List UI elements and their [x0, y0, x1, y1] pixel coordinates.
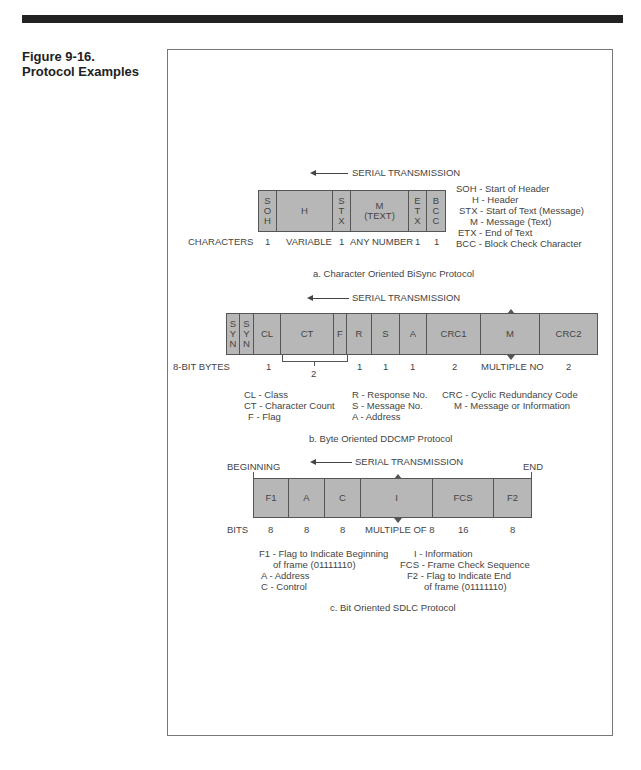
legend-cl: CL - Class [244, 389, 335, 400]
sdlc-legend-col1: F1 - Flag to Indicate Beginning of frame… [259, 548, 388, 592]
figure-number: Figure 9-16. [22, 49, 139, 64]
bisync-frame: SOH H STX M(TEXT) ETX BCC [258, 190, 446, 232]
legend-m: M - Message or Information [442, 400, 578, 411]
header-rule [22, 15, 623, 23]
field-f2: F2 [494, 478, 532, 518]
field-etx: ETX [409, 190, 427, 232]
size-f2: 8 [510, 524, 515, 535]
legend-f: F - Flag [244, 411, 335, 422]
caption-a: a. Character Oriented BiSync Protocol [313, 268, 474, 279]
field-i: I [361, 478, 433, 518]
field-syn-2: SYN [240, 313, 254, 355]
field-s: S [372, 313, 400, 355]
size-a: 8 [304, 524, 309, 535]
size-s: 1 [383, 361, 388, 372]
size-soh: 1 [265, 236, 270, 247]
field-fcs: FCS [433, 478, 494, 518]
size-c: 8 [340, 524, 345, 535]
end-label: END [523, 461, 543, 472]
ct-f-bracket [282, 355, 348, 362]
legend-r: R - Response No. [352, 389, 428, 400]
legend-fcs: FCS - Frame Check Sequence [400, 559, 530, 570]
field-m-label: M [506, 329, 514, 339]
size-h: VARIABLE [286, 236, 332, 247]
size-cl: 1 [266, 361, 271, 372]
size-crc1: 2 [452, 361, 457, 372]
bisync-legend: SOH - Start of Header H - Header STX - S… [456, 183, 606, 249]
legend-bcc: BCC - Block Check Character [456, 238, 606, 249]
field-f: F [334, 313, 347, 355]
field-a: A [400, 313, 427, 355]
size-ct-f: 2 [311, 368, 316, 379]
legend-f1-cont: of frame (01111110) [259, 559, 388, 570]
legend-crc: CRC - Cyclic Redundancy Code [442, 389, 578, 400]
size-a: 1 [410, 361, 415, 372]
field-syn-1: SYN [226, 313, 240, 355]
legend-i: I - Information [400, 548, 530, 559]
legend-etx: ETX - End of Text [456, 227, 606, 238]
field-crc2: CRC2 [540, 313, 598, 355]
break-mark-icon [394, 474, 402, 479]
size-fcs: 16 [458, 524, 469, 535]
break-mark-icon [394, 518, 402, 523]
field-ct: CT [281, 313, 334, 355]
size-stx: 1 [339, 236, 344, 247]
size-i: MULTIPLE OF 8 [365, 524, 435, 535]
figure-name: Protocol Examples [22, 64, 139, 79]
field-bcc: BCC [427, 190, 446, 232]
legend-a: A - Address [259, 570, 388, 581]
size-etx: 1 [415, 236, 420, 247]
legend-a: A - Address [352, 411, 428, 422]
break-mark-icon [507, 355, 515, 360]
bracket-tick [314, 361, 315, 366]
legend-f2: F2 - Flag to Indicate End [400, 570, 530, 581]
size-m: ANY NUMBER [350, 236, 413, 247]
field-r: R [347, 313, 372, 355]
size-r: 1 [357, 361, 362, 372]
legend-m: M - Message (Text) [456, 216, 606, 227]
legend-stx: STX - Start of Text (Message) [456, 205, 606, 216]
ddcmp-legend-col1: CL - Class CT - Character Count F - Flag [244, 389, 335, 422]
legend-f1: F1 - Flag to Indicate Beginning [259, 548, 388, 559]
figure-title: Figure 9-16. Protocol Examples [22, 49, 139, 79]
begin-label: BEGINNING [227, 461, 280, 472]
serial-transmission-label-c: SERIAL TRANSMISSION [355, 456, 463, 467]
field-m: M(TEXT) [351, 190, 409, 232]
field-f1: F1 [253, 478, 289, 518]
left-arrow-icon [309, 298, 349, 299]
ddcmp-frame: SYN SYN CL CT F R S A CRC1 M CRC2 [226, 313, 598, 355]
legend-soh: SOH - Start of Header [456, 183, 606, 194]
legend-h: H - Header [456, 194, 606, 205]
legend-f2-cont: of frame (01111110) [400, 581, 530, 592]
sdlc-frame: F1 A C I FCS F2 [253, 478, 532, 518]
serial-transmission-label-b: SERIAL TRANSMISSION [352, 292, 460, 303]
row-label-bits: BITS [227, 524, 248, 535]
legend-c: C - Control [259, 581, 388, 592]
field-m: M [481, 313, 540, 355]
size-f1: 8 [268, 524, 273, 535]
field-stx: STX [333, 190, 351, 232]
field-c: C [325, 478, 361, 518]
left-arrow-icon [312, 173, 348, 174]
size-crc2: 2 [566, 361, 571, 372]
left-arrow-icon [312, 462, 352, 463]
size-m: MULTIPLE NO [481, 361, 544, 372]
caption-b: b. Byte Oriented DDCMP Protocol [309, 433, 452, 444]
ddcmp-legend-col2: R - Response No. S - Message No. A - Add… [352, 389, 428, 422]
ddcmp-legend-col3: CRC - Cyclic Redundancy Code M - Message… [442, 389, 578, 411]
row-label-bytes: 8-BIT BYTES [173, 361, 230, 372]
field-cl: CL [254, 313, 281, 355]
break-mark-icon [507, 309, 515, 314]
legend-ct: CT - Character Count [244, 400, 335, 411]
field-soh: SOH [258, 190, 277, 232]
serial-transmission-label-a: SERIAL TRANSMISSION [352, 167, 460, 178]
field-h: H [277, 190, 333, 232]
field-a: A [289, 478, 325, 518]
field-crc1: CRC1 [427, 313, 481, 355]
size-bcc: 1 [434, 236, 439, 247]
sdlc-legend-col2: I - Information FCS - Frame Check Sequen… [400, 548, 530, 592]
row-label-characters: CHARACTERS [188, 236, 253, 247]
caption-c: c. Bit Oriented SDLC Protocol [330, 602, 456, 613]
legend-s: S - Message No. [352, 400, 428, 411]
